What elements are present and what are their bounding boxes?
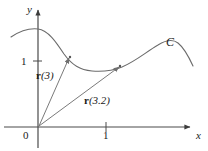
x-axis-tick-label-1: 1 [103,130,109,141]
point-r3-2-tip [119,65,121,67]
y-axis-label: y [27,4,32,15]
vector-label-r3-2: r(3.2) [84,95,110,106]
vector-label-r3-arg: (3) [41,69,54,81]
origin-label: 0 [23,130,29,141]
vector-label-r3: r(3) [36,70,54,81]
vector-function-figure: y x 0 1 1 C r(3) r(3.2) [0,0,208,151]
vector-label-r3-2-arg: (3.2) [89,94,110,106]
x-axis-label: x [196,130,201,141]
point-r3-tip [69,56,71,58]
curve-label-c: C [166,36,174,48]
y-axis-tick-label-1: 1 [21,56,27,67]
